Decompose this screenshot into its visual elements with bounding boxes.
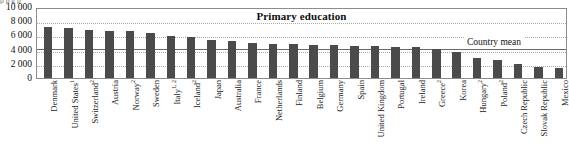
x-tick-label: Switzerland2 [91,80,100,124]
figure-container: p p g p 02 0004 0006 0008 00010 000 Coun… [0,0,569,154]
x-tick-label: Netherlands [275,80,284,121]
bar [391,47,400,78]
bar [534,67,543,78]
x-tick-label: Finland [295,80,304,106]
x-tick-label: Sweden [152,80,161,107]
x-tick-label: Italy1, 2 [173,80,182,105]
bar [207,40,216,78]
bar [187,37,196,78]
x-tick-label: Austria [111,80,120,105]
x-tick-label: Czech Republic [520,80,529,134]
x-tick-label: Portugal [397,80,406,109]
x-tick-label: Iceland2 [193,80,202,108]
bar [514,64,523,78]
footnote-marker: 2 [436,80,442,83]
bar [371,46,380,78]
x-tick-label: Korea [459,80,468,101]
bar [452,52,461,78]
bar [146,33,155,78]
footnote-marker: 2 [89,80,95,83]
bar [309,45,318,78]
bar [44,27,53,78]
footnote-marker: 2 [498,80,504,83]
bar [289,44,298,78]
x-tick-label: Denmark [50,80,59,112]
y-tick-label: 8 000 [11,17,32,27]
y-tick-label: 4 000 [11,46,32,56]
bar [473,58,482,78]
x-tick-label: Greece2 [438,80,447,107]
y-tick-label: 10 000 [6,3,32,13]
bar [330,45,339,78]
y-axis: 02 0004 0006 0008 00010 000 [0,8,34,79]
bar [85,30,94,78]
y-tick-label: 6 000 [11,32,32,42]
clipped-header-text: p p g p [0,0,569,4]
bar [269,44,278,79]
footnote-marker: 2 [130,80,136,83]
footnote-marker: 1, 2 [171,80,177,89]
bar [167,36,176,78]
bar [126,31,135,78]
bar [64,28,73,78]
y-tick-label: 2 000 [11,60,32,70]
bar [105,31,114,78]
bar [412,47,421,78]
x-tick-label: Spain [357,80,366,99]
x-tick-label: Mexico [561,80,569,106]
x-tick-label: Slovak Republic [540,80,549,136]
footnote-marker: 1 [69,80,75,83]
x-tick-label: Germany [336,80,345,112]
bar [493,60,502,78]
x-tick-label: Australia [234,80,243,111]
x-tick-label: Poland2 [500,80,509,107]
y-tick-label: 0 [27,74,32,84]
x-tick-label: United Kingdom [377,80,386,137]
bar [432,49,441,78]
bar [228,41,237,78]
x-axis-category-labels: DenmarkUnited States1Switzerland2Austria… [36,80,567,154]
footnote-marker: 2 [191,80,197,83]
bar-series [37,9,566,78]
footnote-marker: 2 [477,80,483,83]
x-tick-label: Japan [214,80,223,99]
x-tick-label: Norway2 [132,80,141,110]
bar [248,43,257,78]
x-tick-label: Ireland [418,80,427,104]
x-tick-label: France [254,80,263,103]
x-tick-label: Hungary2 [479,80,488,113]
bar [555,68,564,78]
x-tick-label: United States1 [71,80,80,129]
bar [350,46,359,78]
plot-area: Country mean Primary education [36,8,567,79]
x-tick-label: Belgium [316,80,325,109]
